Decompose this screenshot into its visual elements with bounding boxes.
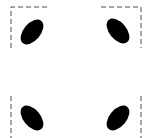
ellipse-mark [16, 101, 48, 134]
ellipse-mark [102, 14, 134, 47]
corner-top-right [101, 7, 141, 48]
ellipse-mark [16, 15, 48, 48]
corner-bottom-left [11, 96, 48, 138]
ellipse-mark [102, 101, 134, 134]
corner-bottom-right [102, 96, 141, 138]
corner-top-left [11, 7, 48, 49]
corner-marks-diagram [0, 0, 149, 138]
